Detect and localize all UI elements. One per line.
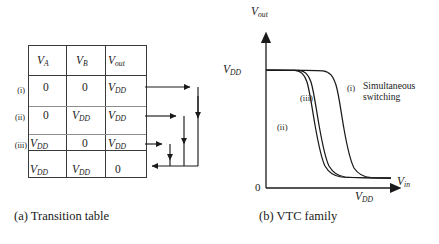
y-tick-vdd: VDD (223, 64, 241, 77)
table-row-divider-2 (29, 134, 146, 135)
y-tick-vdd-sub: DD (230, 68, 241, 77)
caption-panel-b: (b) VTC family (259, 209, 337, 224)
table-column-divider-2 (105, 46, 106, 177)
header-vout-symbol: V (108, 54, 115, 66)
table-header-divider (29, 75, 146, 76)
row-4-va-sub: DD (37, 168, 48, 177)
row-1-va: 0 (43, 82, 49, 95)
row-2-vb-sub: DD (79, 114, 90, 123)
panel-a-transition-table: VA VB Vout (i) 0 0 VDD (ii) 0 VDD VDD (0, 0, 215, 244)
row-label-i: (i) (2, 86, 25, 95)
x-axis-label-sub: in (404, 180, 410, 189)
annotation-line-2: switching (363, 92, 415, 103)
row-4-vb-symbol: V (72, 163, 79, 175)
x-axis-label: Vin (397, 176, 410, 189)
table-header-va: VA (37, 55, 49, 68)
curve-label-i: (i) (347, 83, 355, 93)
curve-label-iii: (iii) (300, 93, 313, 103)
row-3-vb: 0 (82, 138, 88, 151)
row-4-vb: VDD (72, 164, 90, 177)
row-4-vout-symbol: 0 (115, 163, 121, 175)
row-3-va-symbol: V (30, 137, 37, 149)
header-va-symbol: V (37, 54, 44, 66)
table-header-vb: VB (76, 55, 88, 68)
header-vb-sub: B (83, 59, 88, 68)
y-axis-label-symbol: V (251, 5, 258, 17)
row-1-vout-symbol: V (108, 81, 115, 93)
curve-label-ii: (ii) (277, 122, 288, 132)
table-column-divider-1 (66, 46, 67, 177)
table-header-vout: Vout (108, 55, 125, 68)
x-tick-vdd-symbol: V (355, 190, 362, 202)
row-label-iii: (iii) (0, 141, 27, 150)
row-2-vout: VDD (108, 110, 126, 123)
row-1-vb-symbol: 0 (82, 81, 88, 93)
row-2-vout-symbol: V (108, 109, 115, 121)
row-label-ii: (ii) (2, 113, 25, 122)
table-row-divider-1 (29, 106, 146, 107)
x-tick-vdd: VDD (355, 191, 373, 204)
header-vout-sub: out (115, 59, 125, 68)
row-3-va: VDD (30, 138, 48, 151)
row-2-vout-sub: DD (115, 114, 126, 123)
row-2-vb: VDD (72, 110, 90, 123)
row-2-vb-symbol: V (72, 109, 79, 121)
x-tick-vdd-sub: DD (362, 195, 373, 204)
row-3-va-sub: DD (37, 142, 48, 151)
figure-root: VA VB Vout (i) 0 0 VDD (ii) 0 VDD VDD (0, 0, 439, 244)
row-1-vout: VDD (108, 82, 126, 95)
row-1-vout-sub: DD (115, 86, 126, 95)
row-3-vout-sub: DD (115, 142, 126, 151)
y-tick-vdd-symbol: V (223, 63, 230, 75)
x-axis-label-symbol: V (397, 175, 404, 187)
row-3-vout-symbol: V (108, 137, 115, 149)
row-3-vb-symbol: 0 (82, 137, 88, 149)
transition-arrow-diagram (144, 78, 206, 178)
origin-label: 0 (255, 181, 261, 193)
row-4-va-symbol: V (30, 163, 37, 175)
row-2-va-symbol: 0 (43, 109, 49, 121)
row-1-vb: 0 (82, 82, 88, 95)
panel-b-vtc-family: Vout Vin VDD VDD 0 (ii) (iii) (i) Simult… (215, 0, 439, 244)
y-axis-label-sub: out (258, 10, 268, 19)
row-4-vout: 0 (115, 164, 121, 177)
row-4-vb-sub: DD (79, 168, 90, 177)
header-va-sub: A (44, 59, 49, 68)
simultaneous-switching-annotation: Simultaneous switching (363, 81, 415, 102)
caption-panel-a: (a) Transition table (14, 209, 109, 224)
row-3-vout: VDD (108, 138, 126, 151)
header-vb-symbol: V (76, 54, 83, 66)
row-4-va: VDD (30, 164, 48, 177)
row-2-va: 0 (43, 110, 49, 123)
y-axis-label: Vout (251, 6, 268, 19)
row-1-va-symbol: 0 (43, 81, 49, 93)
